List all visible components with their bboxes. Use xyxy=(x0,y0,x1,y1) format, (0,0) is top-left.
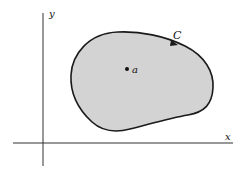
region-curve-c xyxy=(71,32,213,131)
point-a xyxy=(125,67,129,71)
diagram-canvas: a C y x xyxy=(0,0,243,174)
curve-c-label: C xyxy=(173,29,182,42)
x-axis-label: x xyxy=(225,131,231,142)
point-a-label: a xyxy=(132,64,138,75)
y-axis-label: y xyxy=(48,8,55,19)
